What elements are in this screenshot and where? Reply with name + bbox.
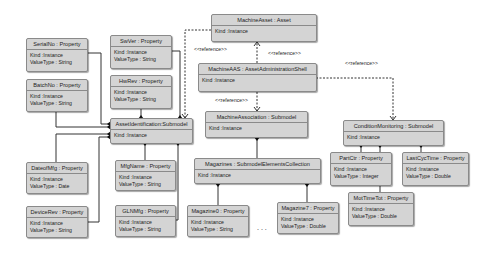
node-batch-no[interactable]: BatchNo : Property Kind :InstanceValueTy…	[26, 79, 88, 112]
node-condition-monitoring[interactable]: ConditionMonitoring : Submodel Kind :Ins…	[343, 120, 444, 146]
node-mot-time-tot[interactable]: MotTimeTot : Property Kind :InstanceValu…	[348, 192, 414, 226]
node-kind: Kind :Instance	[30, 93, 84, 100]
node-title: Magazines : SubmodelElementsCollection	[195, 159, 320, 170]
node-value-type: ValueType : String	[119, 181, 172, 188]
node-value-type: ValueType : String	[191, 226, 245, 233]
node-magazine0[interactable]: Magazine0 : Property Kind :InstanceValue…	[187, 205, 249, 237]
node-title: SerialNo : Property	[27, 39, 87, 50]
node-kind: Kind :Instance	[215, 28, 313, 35]
reference-label: <<reference>>	[215, 97, 248, 103]
reference-label: <<reference>>	[345, 60, 378, 66]
node-kind: Kind :Instance	[114, 89, 168, 96]
node-kind: Kind :Instance	[406, 166, 465, 173]
node-value-type: ValueType : Double	[281, 223, 335, 230]
node-title: Magazine0 : Property	[188, 206, 248, 217]
node-kind: Kind :Instance	[119, 174, 172, 181]
node-value-type: ValueType : Date	[30, 183, 84, 190]
node-asset-identification[interactable]: AssetIdentification:Submodel Kind :Insta…	[110, 118, 193, 144]
node-kind: Kind :Instance	[30, 176, 84, 183]
node-kind: Kind :Instance	[191, 219, 245, 226]
node-last-cyc-time[interactable]: LastCycTime : Property Kind :InstanceVal…	[402, 152, 469, 186]
node-title: LastCycTime : Property	[403, 153, 468, 164]
node-value-type: ValueType : Double	[352, 213, 410, 220]
node-title: ConditionMonitoring : Submodel	[344, 121, 443, 132]
node-title: PartCtr : Property	[331, 153, 391, 164]
node-value-type: ValueType : String	[114, 56, 168, 63]
node-date-of-mfg[interactable]: DateofMfg : Property Kind :InstanceValue…	[26, 162, 88, 194]
node-title: MotTimeTot : Property	[349, 193, 413, 204]
node-title: MfgName : Property	[116, 161, 175, 172]
node-machine-aas[interactable]: MachineAAS : AssetAdministrationShell Ki…	[198, 63, 317, 92]
node-kind: Kind :Instance	[347, 134, 440, 141]
node-kind: Kind :Instance	[114, 49, 168, 56]
node-magazine7[interactable]: Magazine7 : Property Kind :InstanceValue…	[277, 202, 339, 234]
node-device-rev[interactable]: DeviceRev : Property Kind :InstanceValue…	[26, 206, 88, 238]
node-title: SwVer : Property	[111, 36, 171, 47]
node-kind: Kind :Instance	[202, 77, 313, 84]
node-kind: Kind :Instance	[30, 52, 84, 59]
node-kind: Kind :Instance	[114, 132, 189, 139]
node-sw-ver[interactable]: SwVer : Property Kind :InstanceValueType…	[110, 35, 172, 69]
node-machine-asset[interactable]: MachineAsset : Asset Kind :Instance	[211, 14, 317, 42]
node-kind: Kind :Instance	[209, 125, 304, 132]
node-value-type: ValueType : Double	[406, 173, 465, 180]
node-serial-no[interactable]: SerialNo : Property Kind :InstanceValueT…	[26, 38, 88, 72]
node-magazines[interactable]: Magazines : SubmodelElementsCollection K…	[194, 158, 321, 184]
node-value-type: ValueType : String	[30, 59, 84, 66]
node-title: Magazine7 : Property	[278, 203, 338, 214]
node-value-type: ValueType : String	[114, 96, 168, 103]
node-value-type: ValueType : String	[30, 100, 84, 107]
node-kind: Kind :Instance	[334, 166, 388, 173]
node-title: DateofMfg : Property	[27, 163, 87, 174]
node-machine-association[interactable]: MachineAssociation : Submodel Kind :Inst…	[205, 111, 308, 138]
node-title: GLNMfg : Property	[116, 206, 175, 217]
node-title: HwRev : Property	[111, 76, 171, 87]
node-part-ctr[interactable]: PartCtr : Property Kind :InstanceValueTy…	[330, 152, 392, 186]
reference-label: <<reference>>	[194, 46, 227, 52]
node-title: AssetIdentification:Submodel	[111, 119, 192, 130]
node-value-type: ValueType : String	[30, 227, 84, 234]
node-kind: Kind :Instance	[30, 220, 84, 227]
node-gln-mfg[interactable]: GLNMfg : Property Kind :InstanceValueTyp…	[115, 205, 176, 237]
reference-label: <<reference>>	[268, 50, 301, 56]
ellipsis: . . .	[257, 224, 267, 231]
node-kind: Kind :Instance	[119, 219, 172, 226]
node-value-type: ValueType : Integer	[334, 173, 388, 180]
node-kind: Kind :Instance	[198, 172, 317, 179]
node-kind: Kind :Instance	[281, 216, 335, 223]
node-value-type: ValueType : String	[119, 226, 172, 233]
node-title: DeviceRev : Property	[27, 207, 87, 218]
node-mfg-name[interactable]: MfgName : Property Kind :InstanceValueTy…	[115, 160, 176, 191]
node-title: MachineAAS : AssetAdministrationShell	[199, 64, 316, 75]
node-title: MachineAsset : Asset	[212, 15, 316, 26]
node-hw-rev[interactable]: HwRev : Property Kind :InstanceValueType…	[110, 75, 172, 109]
node-title: MachineAssociation : Submodel	[206, 112, 307, 123]
node-title: BatchNo : Property	[27, 80, 87, 91]
node-kind: Kind :Instance	[352, 206, 410, 213]
